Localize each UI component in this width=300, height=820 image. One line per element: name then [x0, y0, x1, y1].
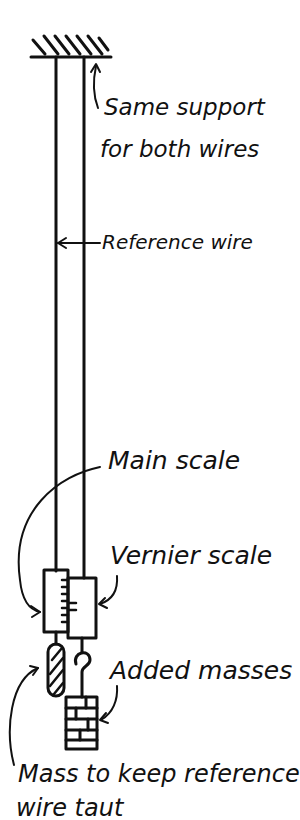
main-scale-arrow — [19, 467, 100, 612]
support-label-line2: for both wires — [100, 138, 259, 161]
main-scale-label: Main scale — [108, 448, 240, 473]
mass-taut-arrow — [10, 668, 38, 765]
ceiling-support — [31, 36, 111, 57]
mass-hook — [75, 653, 90, 697]
mass-taut-label-line2: wire taut — [16, 796, 123, 820]
reference-wire-label: Reference wire — [102, 232, 253, 252]
support-arrow — [94, 66, 98, 108]
mass-taut-label-line1: Mass to keep reference — [18, 762, 300, 786]
added-masses-label: Added masses — [110, 658, 292, 683]
support-label-line1: Same support — [104, 96, 265, 119]
vernier-scale — [68, 578, 96, 638]
vernier-scale-label: Vernier scale — [110, 543, 272, 568]
added-masses — [66, 697, 97, 749]
